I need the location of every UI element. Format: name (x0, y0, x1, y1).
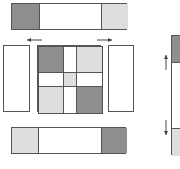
arrow-down-icon (164, 120, 168, 135)
arrow-left-icon (27, 38, 42, 42)
arrows-layer (0, 0, 180, 169)
arrow-up-icon (164, 55, 168, 70)
arrow-right-icon (97, 38, 112, 42)
